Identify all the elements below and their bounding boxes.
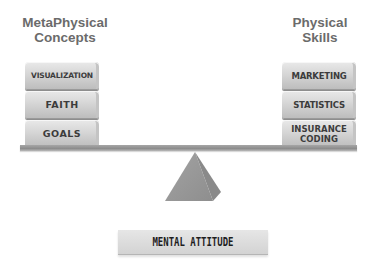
block-goals: GOALS xyxy=(25,120,99,148)
left-title-line-2: Concepts xyxy=(12,30,118,45)
fulcrum-pyramid-icon xyxy=(163,151,223,203)
mental-attitude-label: MENTAL ATTITUDE xyxy=(118,230,268,255)
block-insurance-coding-line-1: INSURANCE xyxy=(291,124,347,134)
block-marketing: MARKETING xyxy=(282,62,356,90)
left-title-line-1: MetaPhysical xyxy=(12,15,118,30)
block-insurance-coding: INSURANCE CODING xyxy=(282,120,356,148)
right-title: Physical Skills xyxy=(272,15,368,45)
right-block-stack: MARKETING STATISTICS INSURANCE CODING xyxy=(282,62,356,149)
mental-attitude-text: MENTAL ATTITUDE xyxy=(152,235,233,249)
block-visualization: VISUALIZATION xyxy=(25,62,99,90)
block-faith: FAITH xyxy=(25,91,99,119)
right-title-line-2: Skills xyxy=(272,30,368,45)
right-title-line-1: Physical xyxy=(272,15,368,30)
left-title: MetaPhysical Concepts xyxy=(12,15,118,45)
block-insurance-coding-line-2: CODING xyxy=(300,134,338,144)
block-statistics: STATISTICS xyxy=(282,91,356,119)
left-block-stack: VISUALIZATION FAITH GOALS xyxy=(25,62,99,149)
